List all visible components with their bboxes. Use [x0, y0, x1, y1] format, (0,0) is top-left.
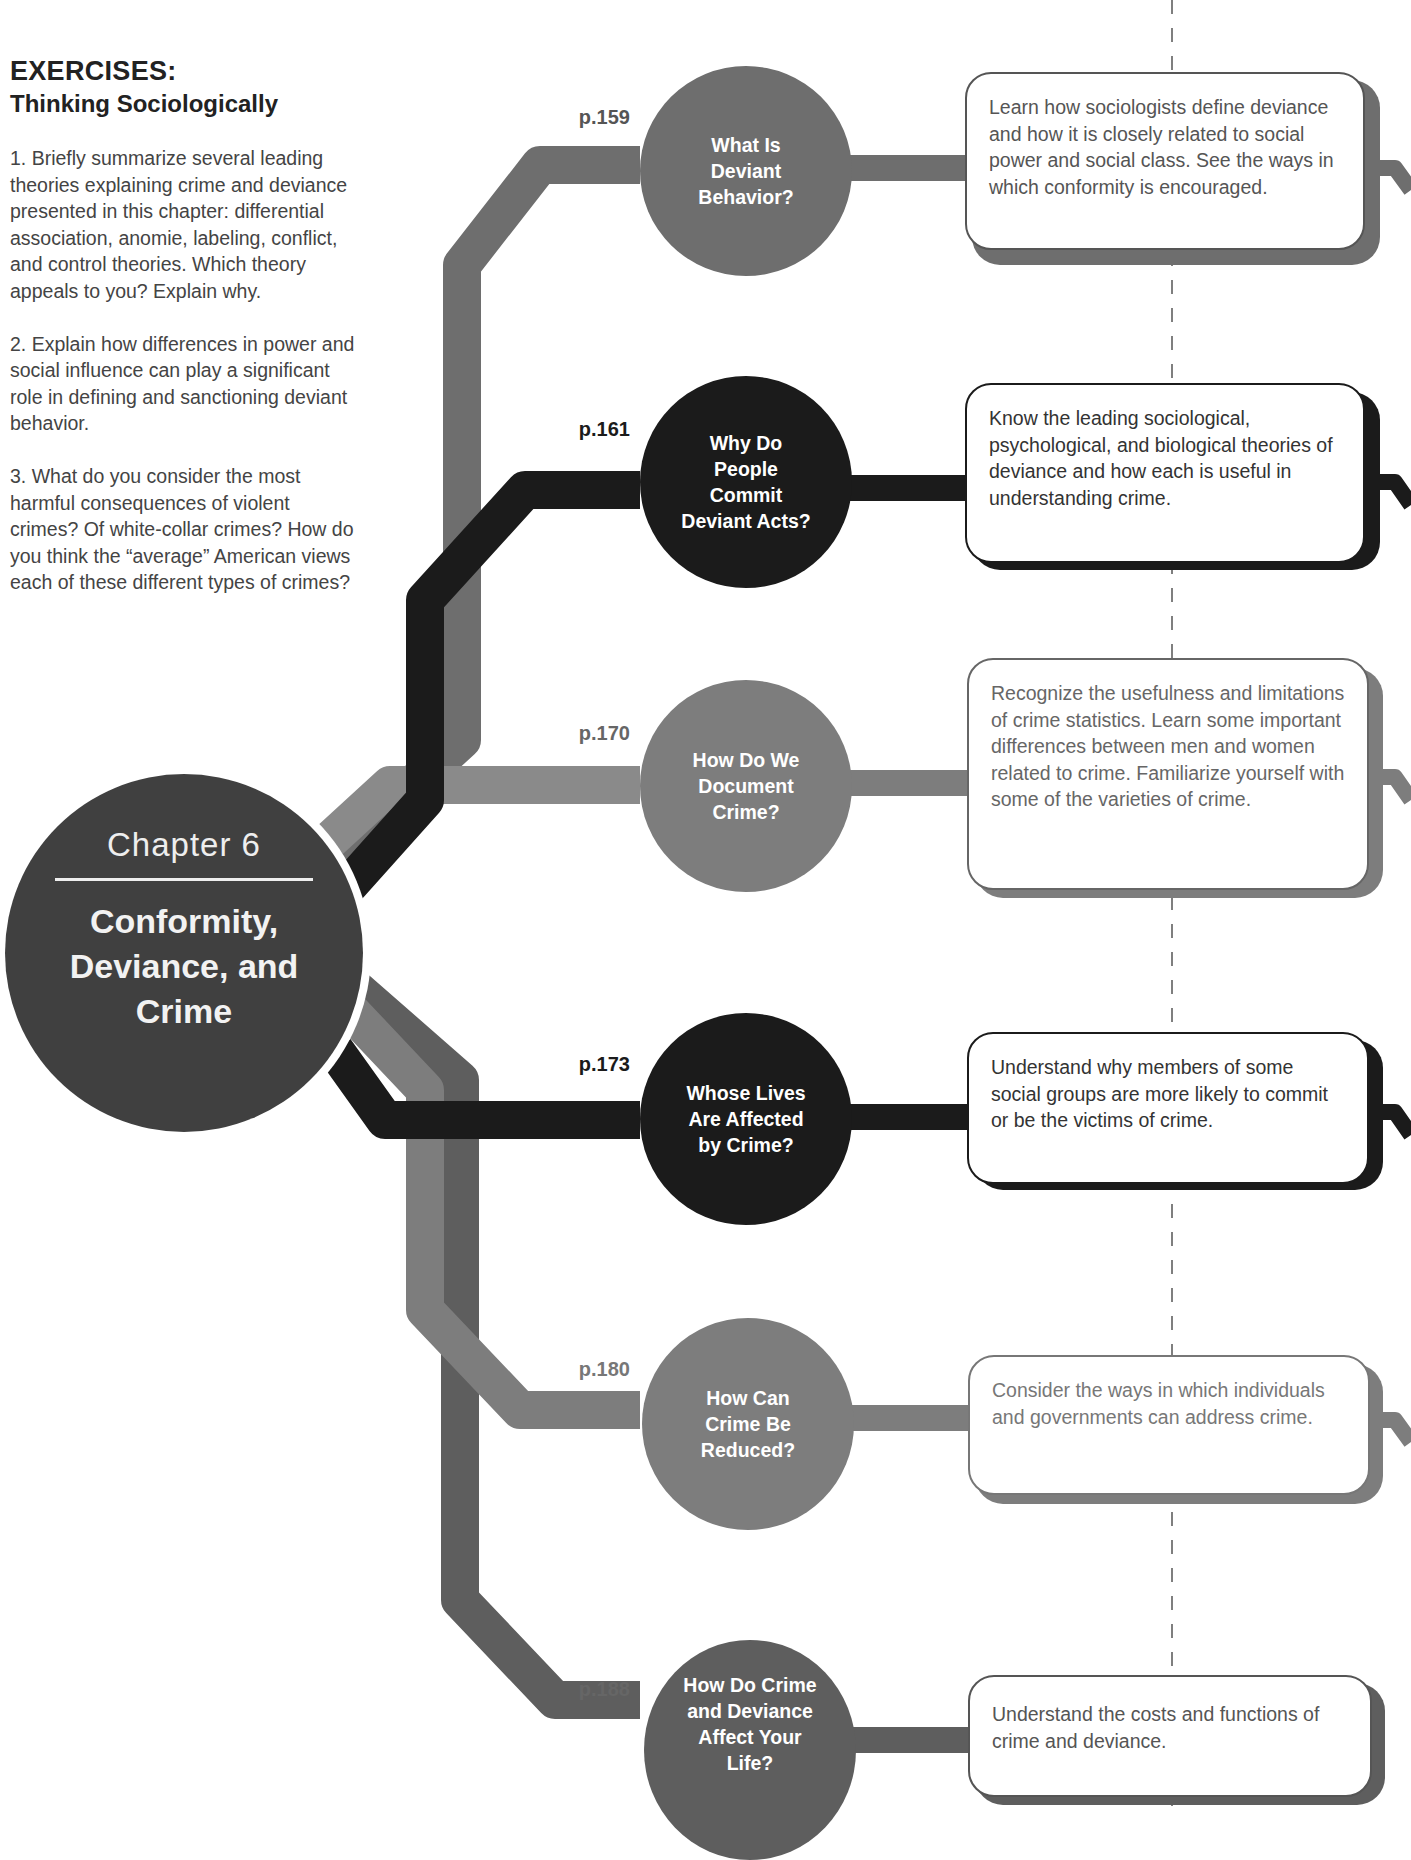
objective-box-3: Recognize the usefulness and limitations…: [967, 658, 1369, 890]
objective-text-3: Recognize the usefulness and limitations…: [991, 682, 1344, 810]
line-section-2: [340, 490, 640, 895]
section-node-4[interactable]: Whose Lives Are Affected by Crime?: [640, 1013, 852, 1225]
section-node-6[interactable]: How Do Crime and Deviance Affect Your Li…: [644, 1640, 856, 1860]
exit-1: [1375, 168, 1411, 190]
chapter-hub: Chapter 6 Conformity, Deviance, and Crim…: [5, 774, 363, 1132]
section-question-5: How Can Crime Be Reduced?: [688, 1385, 808, 1463]
objective-box-1: Learn how sociologists define deviance a…: [965, 72, 1365, 250]
objective-box-2: Know the leading sociological, psycholog…: [965, 383, 1365, 563]
objective-text-1: Learn how sociologists define deviance a…: [989, 96, 1334, 198]
objective-box-5: Consider the ways in which individuals a…: [968, 1355, 1370, 1495]
chapter-divider: [55, 878, 313, 881]
objective-text-5: Consider the ways in which individuals a…: [992, 1379, 1325, 1428]
line-section-6: [340, 975, 640, 1700]
page-ref-1[interactable]: p.159: [550, 106, 630, 129]
objective-text-2: Know the leading sociological, psycholog…: [989, 407, 1333, 509]
section-node-3[interactable]: How Do We Document Crime?: [640, 680, 852, 892]
section-question-4: Whose Lives Are Affected by Crime?: [676, 1080, 816, 1158]
section-node-2[interactable]: Why Do People Commit Deviant Acts?: [640, 376, 852, 588]
objective-box-6: Understand the costs and functions of cr…: [968, 1675, 1372, 1797]
page-ref-6[interactable]: p.188: [550, 1678, 630, 1701]
page-ref-4[interactable]: p.173: [550, 1053, 630, 1076]
section-question-6: How Do Crime and Deviance Affect Your Li…: [680, 1672, 820, 1776]
section-question-1: What Is Deviant Behavior?: [686, 132, 806, 210]
chapter-title: Conformity, Deviance, and Crime: [59, 899, 309, 1034]
objective-box-4: Understand why members of some social gr…: [967, 1032, 1369, 1184]
objective-text-4: Understand why members of some social gr…: [991, 1056, 1328, 1131]
section-question-3: How Do We Document Crime?: [666, 747, 826, 825]
exit-2: [1375, 482, 1411, 505]
page-ref-3[interactable]: p.170: [550, 722, 630, 745]
objective-text-6: Understand the costs and functions of cr…: [992, 1703, 1319, 1752]
chapter-number: Chapter 6: [5, 826, 363, 864]
page-ref-2[interactable]: p.161: [550, 418, 630, 441]
section-node-5[interactable]: How Can Crime Be Reduced?: [642, 1318, 854, 1530]
page-ref-5[interactable]: p.180: [550, 1358, 630, 1381]
section-node-1[interactable]: What Is Deviant Behavior?: [640, 66, 852, 276]
section-question-2: Why Do People Commit Deviant Acts?: [676, 430, 816, 534]
